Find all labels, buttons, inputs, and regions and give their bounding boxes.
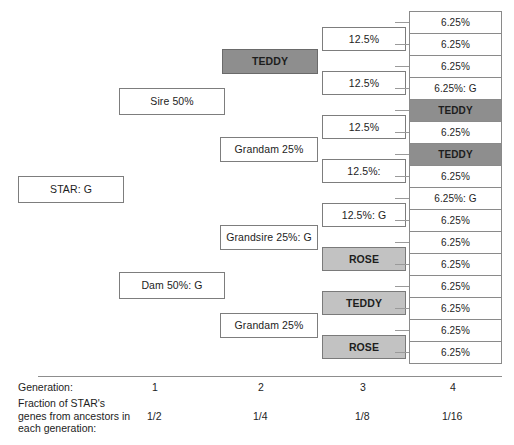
connector-tick — [395, 176, 409, 177]
connector-tick — [395, 22, 409, 23]
connector-tick — [395, 88, 409, 89]
legend-fraction-value-2: 1/4 — [253, 410, 268, 422]
pedigree-box-g4-4[interactable]: 12.5%: — [322, 159, 406, 183]
pedigree-box-g5-7[interactable]: TEDDY — [409, 143, 502, 166]
pedigree-box-g5-10[interactable]: 6.25% — [409, 209, 502, 232]
pedigree-box-g5-4[interactable]: 6.25%: G — [409, 77, 502, 100]
pedigree-box-g5-16[interactable]: 6.25% — [409, 341, 502, 364]
pedigree-box-g4-1[interactable]: 12.5% — [322, 27, 406, 51]
pedigree-box-g5-14[interactable]: 6.25% — [409, 297, 502, 320]
connector-tick — [395, 264, 409, 265]
legend-generation-value-1: 1 — [152, 381, 158, 393]
pedigree-box-rose-lower[interactable]: ROSE — [322, 335, 406, 359]
legend-generation-value-2: 2 — [258, 381, 264, 393]
legend-fraction-label: Fraction of STAR's genes from ancestors … — [18, 397, 130, 435]
pedigree-box-g5-8[interactable]: 6.25% — [409, 165, 502, 188]
connector-tick — [395, 66, 409, 67]
pedigree-box-teddy-gen3[interactable]: TEDDY — [222, 49, 318, 74]
connector-tick — [395, 286, 409, 287]
pedigree-box-teddy-gen4[interactable]: TEDDY — [322, 291, 406, 315]
pedigree-box-g5-1[interactable]: 6.25% — [409, 11, 502, 34]
legend-generation-value-3: 3 — [360, 381, 366, 393]
pedigree-box-g5-11[interactable]: 6.25% — [409, 231, 502, 254]
pedigree-box-g5-13[interactable]: 6.25% — [409, 275, 502, 298]
pedigree-box-star[interactable]: STAR: G — [18, 176, 124, 203]
connector-tick — [395, 44, 409, 45]
pedigree-box-g5-12[interactable]: 6.25% — [409, 253, 502, 276]
pedigree-box-g5-9[interactable]: 6.25%: G — [409, 187, 502, 210]
connector-tick — [395, 352, 409, 353]
pedigree-box-g4-3[interactable]: 12.5% — [322, 115, 406, 139]
pedigree-box-g4-2[interactable]: 12.5% — [322, 71, 406, 95]
pedigree-box-grandam-lower[interactable]: Grandam 25% — [220, 313, 318, 338]
legend-fraction-value-1: 1/2 — [147, 410, 162, 422]
legend-fraction-value-3: 1/8 — [355, 410, 370, 422]
legend-divider — [38, 376, 502, 377]
legend-fraction-value-4: 1/16 — [442, 410, 462, 422]
pedigree-box-g5-2[interactable]: 6.25% — [409, 33, 502, 56]
pedigree-box-g5-3[interactable]: 6.25% — [409, 55, 502, 78]
connector-tick — [395, 154, 409, 155]
pedigree-box-grandam-upper[interactable]: Grandam 25% — [220, 137, 318, 162]
legend-generation-value-4: 4 — [450, 381, 456, 393]
connector-tick — [395, 220, 409, 221]
connector-tick — [395, 132, 409, 133]
pedigree-box-grandsire[interactable]: Grandsire 25%: G — [220, 225, 318, 250]
pedigree-box-g4-5[interactable]: 12.5%: G — [322, 203, 406, 227]
pedigree-box-g5-15[interactable]: 6.25% — [409, 319, 502, 342]
connector-tick — [395, 330, 409, 331]
legend-generation-label: Generation: — [18, 381, 73, 394]
connector-tick — [395, 242, 409, 243]
pedigree-box-g5-5[interactable]: TEDDY — [409, 99, 502, 122]
pedigree-box-rose-upper[interactable]: ROSE — [322, 247, 406, 271]
pedigree-box-dam[interactable]: Dam 50%: G — [119, 272, 225, 299]
pedigree-chart: STAR: G Sire 50% Dam 50%: G TEDDY Granda… — [0, 0, 514, 445]
connector-tick — [395, 198, 409, 199]
connector-tick — [395, 110, 409, 111]
connector-tick — [395, 308, 409, 309]
pedigree-box-g5-6[interactable]: 6.25% — [409, 121, 502, 144]
pedigree-box-sire[interactable]: Sire 50% — [119, 88, 225, 115]
